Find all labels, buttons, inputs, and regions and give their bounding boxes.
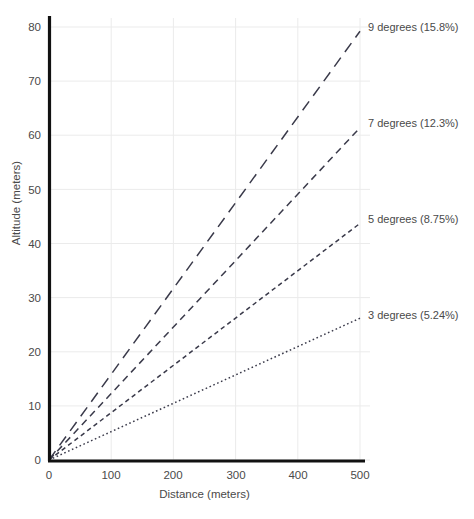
series-label-7-degrees: 7 degrees (12.3%) bbox=[368, 118, 459, 129]
x-tick-label-100: 100 bbox=[91, 470, 131, 482]
y-tick-label-20: 20 bbox=[11, 347, 41, 359]
x-tick-label-300: 300 bbox=[216, 470, 256, 482]
x-tick-label-400: 400 bbox=[278, 470, 318, 482]
y-tick-label-30: 30 bbox=[11, 293, 41, 305]
series-label-5-degrees: 5 degrees (8.75%) bbox=[368, 214, 459, 225]
chart-container: 0 10 20 30 40 50 60 70 80 0 100 200 300 … bbox=[0, 0, 474, 519]
y-axis-title: Altitude (meters) bbox=[10, 143, 22, 263]
y-tick-label-60: 60 bbox=[11, 130, 41, 142]
series-lines bbox=[49, 31, 360, 460]
series-label-9-degrees: 9 degrees (15.8%) bbox=[368, 22, 459, 33]
x-tick-label-500: 500 bbox=[340, 470, 380, 482]
x-axis-title: Distance (meters) bbox=[49, 488, 360, 500]
y-tick-label-80: 80 bbox=[11, 22, 41, 34]
x-tick-label-200: 200 bbox=[153, 470, 193, 482]
grid-horizontal bbox=[49, 27, 370, 460]
y-tick-label-0: 0 bbox=[11, 455, 41, 467]
series-label-3-degrees: 3 degrees (5.24%) bbox=[368, 310, 459, 321]
series-line-9-degrees bbox=[49, 31, 360, 460]
y-tick-label-10: 10 bbox=[11, 401, 41, 413]
y-tick-label-70: 70 bbox=[11, 76, 41, 88]
series-line-3-degrees bbox=[49, 318, 360, 460]
series-line-5-degrees bbox=[49, 223, 360, 460]
series-line-7-degrees bbox=[49, 128, 360, 460]
plot-area bbox=[0, 0, 474, 519]
x-tick-label-0: 0 bbox=[29, 470, 69, 482]
grid-vertical bbox=[49, 18, 360, 460]
